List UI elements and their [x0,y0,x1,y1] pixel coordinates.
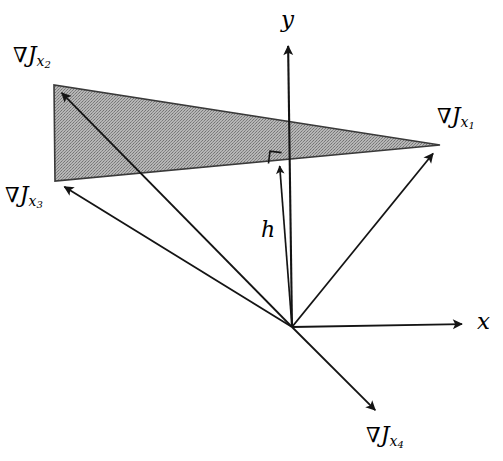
vector-diagram-figure: y x h ∇Jx1 ∇Jx2 ∇Jx3 ∇Jx4 [0,0,503,461]
vector-grad-j-x3 [64,187,292,327]
h-vector-label: h [261,219,275,241]
label-subscript-index: 3 [36,199,42,210]
nabla-icon: ∇ [437,104,452,128]
label-base-j: J [452,103,461,128]
label-grad-j-x1: ∇Jx1 [437,105,475,131]
label-base-j: J [381,422,390,447]
x-axis-label: x [477,310,490,333]
nabla-icon: ∇ [366,423,381,447]
shaded-convex-hull [54,85,440,181]
label-subscript-index: 1 [468,120,474,131]
label-grad-j-x4: ∇Jx4 [366,424,404,450]
x-axis-line [292,324,462,327]
label-base-j: J [20,182,29,207]
vector-grad-j-x1 [292,154,433,327]
label-grad-j-x2: ∇Jx2 [13,44,51,70]
label-subscript-index: 4 [397,439,403,450]
label-base-j: J [28,42,37,67]
y-axis-label: y [281,8,294,31]
nabla-icon: ∇ [13,43,28,67]
label-grad-j-x3: ∇Jx3 [5,184,43,210]
diagram-canvas [0,0,503,461]
label-subscript-index: 2 [44,59,50,70]
nabla-icon: ∇ [5,183,20,207]
vector-grad-j-x4 [292,327,375,410]
